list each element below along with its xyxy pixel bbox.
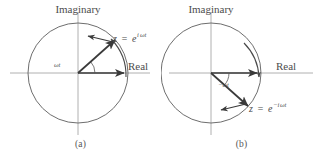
phasor-expression-b: z = e −i ωt <box>248 101 287 114</box>
angle-label-b: −ωt <box>218 81 229 88</box>
real-axis-label-b: Real <box>276 60 296 72</box>
imaginary-axis-label-a: Imaginary <box>55 3 101 15</box>
imaginary-axis-label-b: Imaginary <box>188 3 234 15</box>
rotation-direction-arc-a <box>111 39 126 77</box>
tangent-velocity-arrow-a <box>88 36 113 42</box>
phasor-vector-a <box>78 40 115 73</box>
rotation-direction-arc-b <box>244 43 259 77</box>
panel-b: Imaginary Real −ωt z = e −i ωt (b) <box>161 0 322 163</box>
real-axis-label-a: Real <box>128 60 148 72</box>
panel-b-caption: (b) <box>161 139 322 149</box>
expression-exponent-i-a: i <box>137 31 139 38</box>
expression-equals-a: = <box>121 33 128 44</box>
expression-exponent-i-b: −i <box>273 101 279 108</box>
expression-exponent-omega-t-a: ωt <box>140 31 147 38</box>
expression-variable-b: z <box>248 103 253 114</box>
complex-plane-rotation-figure: Imaginary Real ωt z = e i ωt (a) <box>0 0 322 163</box>
tangent-velocity-arrow-b <box>221 104 246 110</box>
angle-label-a: ωt <box>54 61 61 68</box>
expression-equals-b: = <box>257 103 264 114</box>
expression-exponent-omega-t-b: ωt <box>280 101 287 108</box>
expression-variable-a: z <box>112 33 117 44</box>
angle-arc-a <box>91 62 95 73</box>
phasor-vector-b <box>211 73 248 106</box>
panel-a-caption: (a) <box>0 139 161 149</box>
panel-a: Imaginary Real ωt z = e i ωt (a) <box>0 0 161 163</box>
